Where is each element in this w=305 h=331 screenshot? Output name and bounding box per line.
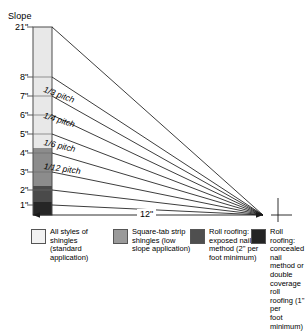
run-dimension-label: 12" xyxy=(137,209,156,219)
legend-item-shingles: All styles of shingles (standard applica… xyxy=(31,228,107,262)
legend-swatch-concealed-nail xyxy=(251,229,266,244)
legend: All styles of shingles (standard applica… xyxy=(0,226,305,283)
legend-swatch-shingles xyxy=(31,229,46,244)
slope-line-6 xyxy=(52,115,263,215)
slope-lines xyxy=(52,27,263,215)
legend-label-concealed-nail: Roll roofing: concealed nail method or d… xyxy=(270,228,305,331)
band-exposed-nail xyxy=(33,186,52,202)
slope-line-7 xyxy=(52,96,263,215)
legend-label-shingles: All styles of shingles (standard applica… xyxy=(50,228,88,262)
legend-swatch-exposed-nail xyxy=(190,229,205,244)
legend-label-square-tab: Square-tab strip shingles (low slope app… xyxy=(132,228,190,254)
slope-pitch-diagram: Slope 21" 8" 7" 6" 5" 4" 3" 2" 1" xyxy=(0,0,305,225)
slope-line-1 xyxy=(52,205,263,215)
tick-marks xyxy=(27,27,33,205)
slope-line-21 xyxy=(52,27,263,215)
band-concealed-nail xyxy=(33,202,52,215)
slope-line-4 xyxy=(52,153,263,215)
legend-swatch-square-tab xyxy=(113,229,128,244)
legend-item-concealed-nail: Roll roofing: concealed nail method or d… xyxy=(251,228,305,331)
legend-item-square-tab: Square-tab strip shingles (low slope app… xyxy=(113,228,191,254)
